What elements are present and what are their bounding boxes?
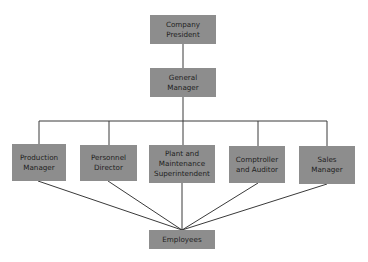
connector-comptroller-employees (182, 183, 258, 230)
node-production-manager: Production Manager (12, 144, 66, 181)
node-comptroller-auditor: Comptroller and Auditor (229, 146, 285, 183)
connector-sales-employees (182, 184, 327, 230)
node-label: Employees (162, 235, 201, 245)
connector-production-employees (38, 181, 182, 230)
node-label: Production Manager (20, 153, 58, 173)
node-label: Company President (166, 20, 200, 40)
node-label: Plant and Maintenance Superintendent (154, 149, 210, 179)
org-chart: Company President General Manager Produc… (0, 0, 368, 262)
node-sales-manager: Sales Manager (299, 146, 355, 184)
node-personnel-director: Personnel Director (80, 145, 137, 181)
node-label: Personnel Director (91, 153, 126, 173)
node-label: Comptroller and Auditor (236, 155, 278, 175)
node-plant-maintenance-superintendent: Plant and Maintenance Superintendent (149, 145, 215, 183)
node-employees: Employees (149, 230, 215, 249)
node-general-manager: General Manager (150, 68, 216, 97)
connector-personnel-employees (108, 181, 182, 230)
node-label: General Manager (167, 73, 199, 93)
node-label: Sales Manager (311, 155, 343, 175)
node-company-president: Company President (150, 15, 216, 44)
